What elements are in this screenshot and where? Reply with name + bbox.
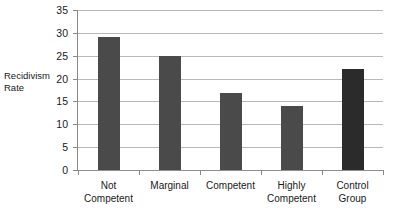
x-axis-tick-mark (261, 170, 262, 175)
y-axis-tick-mark (73, 56, 78, 57)
bar (342, 69, 364, 170)
gridline (78, 56, 383, 57)
x-axis-category-label: Competent (200, 180, 261, 193)
gridline (78, 79, 383, 80)
x-axis-category-label: Not Competent (78, 180, 139, 205)
plot-area (78, 10, 383, 170)
y-axis-tick-mark (73, 33, 78, 34)
x-axis-category-label: Control Group (322, 180, 383, 205)
bar (281, 106, 303, 170)
x-axis-tick-mark (383, 170, 384, 175)
bar (159, 56, 181, 170)
y-axis-tick-label: 0 (44, 165, 68, 176)
y-axis-tick-label: 35 (44, 5, 68, 16)
y-axis-tick-label: 10 (44, 119, 68, 130)
x-axis-category-label: Marginal (139, 180, 200, 193)
x-axis-tick-mark (139, 170, 140, 175)
gridline (78, 33, 383, 34)
y-axis-tick-mark (73, 79, 78, 80)
y-axis-tick-mark (73, 147, 78, 148)
recidivism-rate-bar-chart: Recidivism Rate 05101520253035Not Compet… (0, 0, 394, 215)
y-axis-tick-label: 30 (44, 28, 68, 39)
y-axis-tick-label: 15 (44, 96, 68, 107)
y-axis-tick-mark (73, 124, 78, 125)
y-axis-tick-label: 20 (44, 74, 68, 85)
x-axis-tick-mark (322, 170, 323, 175)
x-axis-tick-mark (200, 170, 201, 175)
gridline (78, 170, 383, 171)
y-axis-tick-label: 5 (44, 142, 68, 153)
x-axis-tick-mark (78, 170, 79, 175)
bar (98, 37, 120, 170)
y-axis-tick-mark (73, 10, 78, 11)
y-axis-tick-mark (73, 101, 78, 102)
y-axis-tick-label: 25 (44, 51, 68, 62)
gridline (78, 10, 383, 11)
bar (220, 93, 242, 170)
x-axis-category-label: Highly Competent (261, 180, 322, 205)
